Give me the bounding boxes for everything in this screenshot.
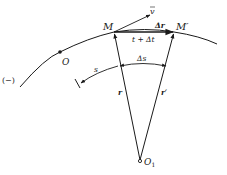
- trajectory-curve: [20, 30, 217, 88]
- radius-r: [115, 34, 141, 160]
- radius-r-prime: [140, 34, 174, 160]
- label-M: M: [102, 21, 114, 32]
- label-s: s: [94, 65, 98, 74]
- label-delta-r: Δr: [154, 21, 166, 30]
- label-negative-direction: (−): [2, 76, 15, 85]
- label-origin-O: O: [62, 57, 70, 67]
- origin-point: [58, 50, 62, 54]
- label-time: t + Δt: [132, 35, 155, 44]
- center-point-O1: [138, 159, 141, 162]
- delta-s-arc: [120, 64, 166, 67]
- s-arc: [81, 66, 118, 83]
- label-O1-sub: 1: [151, 161, 155, 168]
- label-r: r: [118, 88, 123, 97]
- label-center-O1: O1: [144, 157, 155, 168]
- s-arc-tick: [75, 79, 80, 88]
- curvilinear-motion-diagram: M M′ v Δr t + Δt O (−) Δs s r r′ O1: [0, 0, 227, 175]
- label-M-prime: M′: [175, 21, 189, 32]
- label-v: v: [150, 7, 155, 16]
- label-r-prime: r′: [161, 88, 167, 97]
- label-delta-s: Δs: [136, 54, 146, 63]
